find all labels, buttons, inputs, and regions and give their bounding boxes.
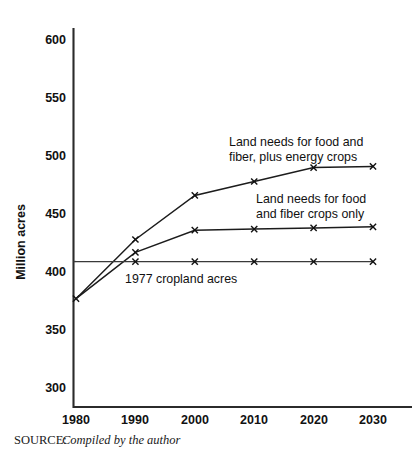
annotation-energy-line2: fiber, plus energy crops [229, 150, 357, 164]
y-tick-500: 500 [45, 149, 66, 163]
annotation-foodfiber-line2: and fiber crops only [256, 207, 365, 221]
y-axis-title: Million acres [14, 204, 28, 280]
annotation-energy-line1: Land needs for food and [229, 135, 363, 149]
source-prefix: SOURCE: [14, 433, 67, 447]
y-tick-350: 350 [45, 323, 66, 337]
x-tick-1980: 1980 [62, 413, 90, 427]
y-tick-300: 300 [45, 381, 66, 395]
y-tick-450: 450 [45, 207, 66, 221]
source-text: Compiled by the author [62, 433, 181, 447]
y-tick-600: 600 [45, 33, 66, 47]
annotation-foodfiber-line1: Land needs for food [256, 192, 366, 206]
line-chart-canvas: 600 550 500 450 400 350 300 Million acre… [0, 0, 412, 455]
x-tick-2010: 2010 [240, 413, 268, 427]
x-tick-2020: 2020 [300, 413, 328, 427]
x-tick-2030: 2030 [359, 413, 387, 427]
y-tick-550: 550 [45, 91, 66, 105]
source-caption: SOURCE: Compiled by the author [14, 433, 181, 447]
y-tick-400: 400 [45, 265, 66, 279]
annotation-cropland-baseline: 1977 cropland acres [125, 272, 237, 286]
x-tick-2000: 2000 [181, 413, 209, 427]
chart-figure: 600 550 500 450 400 350 300 Million acre… [0, 0, 412, 455]
x-tick-1990: 1990 [121, 413, 149, 427]
